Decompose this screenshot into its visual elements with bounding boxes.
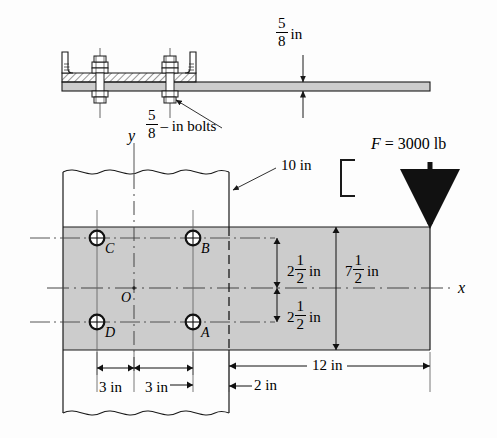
dim-label-col-right: 3 in: [145, 380, 168, 395]
bolt-label-A: A: [201, 326, 210, 340]
dim-label-col-left: 3 in: [99, 380, 122, 395]
thickness-numerator: 5: [276, 16, 288, 31]
force-symbol: F: [371, 135, 381, 152]
bolt-size-note: 5 8 – in bolts: [146, 108, 216, 141]
bolt-hole-A: [186, 315, 201, 330]
force-units: lb: [430, 135, 446, 152]
side-elevation-group: [62, 48, 430, 128]
origin-label: O: [121, 291, 131, 305]
dim-lower-whole: 2: [287, 310, 295, 325]
diagram-geometry: [0, 0, 497, 438]
channel-size-label: 10 in: [281, 158, 311, 173]
thickness-dimension-label: 5 8 in: [276, 16, 302, 49]
force-label: F=3000lb: [371, 136, 446, 152]
bolt-note-numerator: 5: [146, 108, 158, 123]
bolt-hole-D: [90, 315, 105, 330]
break-line-bottom: [63, 411, 229, 415]
channel-symbol: [341, 160, 355, 196]
dim-lower-den: 2: [295, 317, 307, 332]
dim-lower-num: 1: [295, 299, 307, 314]
force-equals: =: [381, 135, 398, 152]
dim-label-plate-height: 7 1 2 in: [345, 253, 379, 286]
bolt-label-B: B: [201, 242, 210, 256]
dim-height-den: 2: [353, 271, 365, 286]
dim-upper-unit: in: [306, 264, 321, 279]
front-view-group: [30, 143, 455, 415]
break-line-top: [63, 170, 229, 174]
thickness-denominator: 8: [276, 34, 288, 49]
dim-upper-whole: 2: [287, 264, 295, 279]
dim-height-whole: 7: [345, 264, 353, 279]
x-axis-label: x: [458, 280, 465, 296]
bolt-hole-C: [90, 231, 105, 246]
dim-lower-unit: in: [306, 310, 321, 325]
figure-canvas: 5 8 in 5 8 – in bolts y x O F=3000lb 10 …: [0, 0, 497, 438]
bolt-label-D: D: [105, 326, 115, 340]
y-axis-label: y: [128, 128, 135, 144]
dim-label-edge: 2 in: [254, 378, 277, 393]
bolt-label-C: C: [105, 242, 114, 256]
bolt-hole-B: [186, 231, 201, 246]
dim-label-overhang: 12 in: [307, 358, 347, 373]
dim-label-upper-2p5: 2 1 2 in: [287, 253, 321, 286]
channel-web-hatched: [62, 73, 196, 82]
bolt-note-denominator: 8: [146, 126, 158, 141]
origin-dot: [132, 286, 135, 289]
dim-height-unit: in: [364, 264, 379, 279]
force-magnitude: 3000: [398, 135, 430, 152]
thickness-unit: in: [288, 27, 303, 42]
dim-upper-den: 2: [295, 271, 307, 286]
dim-height-num: 1: [353, 253, 365, 268]
dim-edge-2in: [229, 383, 252, 390]
channel-size-leader: [233, 168, 276, 190]
plate-edge-view: [62, 82, 430, 91]
bolt-note-text: – in bolts: [158, 119, 217, 134]
dim-label-lower-2p5: 2 1 2 in: [287, 299, 321, 332]
dim-upper-num: 1: [295, 253, 307, 268]
